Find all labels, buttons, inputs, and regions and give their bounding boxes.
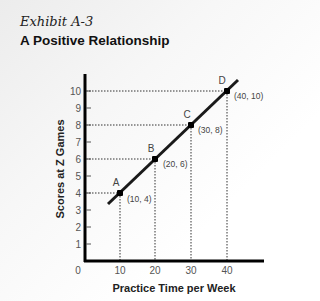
point-d-label: D (218, 75, 225, 86)
y-tick-10: 10 (70, 86, 82, 97)
y-tick-3: 3 (75, 205, 81, 216)
point-d-coord: (40, 10) (234, 91, 263, 101)
y-tick-labels: 10 9 8 7 6 5 4 3 2 1 (70, 86, 82, 250)
point-d (224, 88, 230, 94)
point-c-coord: (30, 8) (198, 125, 223, 135)
x-tick-labels: 0 10 20 30 40 (75, 265, 233, 276)
origin-label: 0 (75, 265, 81, 276)
point-b (152, 156, 158, 162)
y-tick-5: 5 (75, 171, 81, 182)
y-axis-title: Scores at Z Games (54, 119, 66, 218)
x-tick-30: 30 (185, 265, 197, 276)
point-c (188, 122, 194, 128)
x-tick-10: 10 (114, 265, 126, 276)
point-c-label: C (183, 109, 190, 120)
y-tick-9: 9 (75, 103, 81, 114)
y-tick-4: 4 (75, 188, 81, 199)
x-axis-title: Practice Time per Week (112, 282, 236, 294)
y-tick-2: 2 (75, 222, 81, 233)
point-a (117, 190, 123, 196)
x-tick-20: 20 (149, 265, 161, 276)
y-tick-7: 7 (75, 137, 81, 148)
y-tick-8: 8 (75, 120, 81, 131)
point-a-label: A (113, 177, 120, 188)
chart: 10 9 8 7 6 5 4 3 2 1 0 10 20 30 40 Pract… (0, 0, 309, 301)
point-b-coord: (20, 6) (163, 159, 188, 169)
y-tick-6: 6 (75, 154, 81, 165)
guide-lines (86, 91, 227, 260)
x-tick-40: 40 (221, 265, 233, 276)
relationship-line (108, 80, 238, 204)
y-tick-1: 1 (75, 239, 81, 250)
y-ticks (86, 91, 91, 244)
point-a-coord: (10, 4) (127, 194, 152, 204)
point-b-label: B (148, 143, 155, 154)
